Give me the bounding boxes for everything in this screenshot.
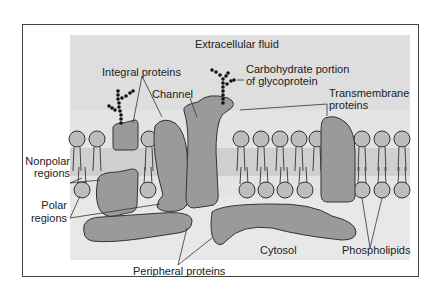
- label-transmembrane-1: Transmembrane: [329, 87, 409, 99]
- label-carbohydrate-2: of glycoprotein: [246, 75, 318, 87]
- label-polar-1: Polar: [24, 199, 67, 211]
- label-integral-proteins: Integral proteins: [102, 66, 181, 78]
- label-extracellular-fluid: Extracellular fluid: [195, 38, 279, 50]
- integral-protein-small: [113, 120, 138, 150]
- label-cytosol: Cytosol: [260, 244, 297, 256]
- label-channel: Channel: [152, 88, 193, 100]
- label-polar-2: regions: [24, 212, 67, 224]
- label-peripheral-proteins: Peripheral proteins: [133, 265, 225, 277]
- transmembrane-protein: [321, 117, 355, 202]
- integral-protein-lower: [96, 169, 138, 216]
- label-nonpolar-1: Nonpolar: [24, 155, 70, 167]
- label-transmembrane-2: proteins: [329, 99, 368, 111]
- label-nonpolar-2: regions: [24, 167, 70, 179]
- label-carbohydrate-1: Carbohydrate portion: [246, 63, 349, 75]
- label-phospholipids: Phospholipids: [342, 244, 411, 256]
